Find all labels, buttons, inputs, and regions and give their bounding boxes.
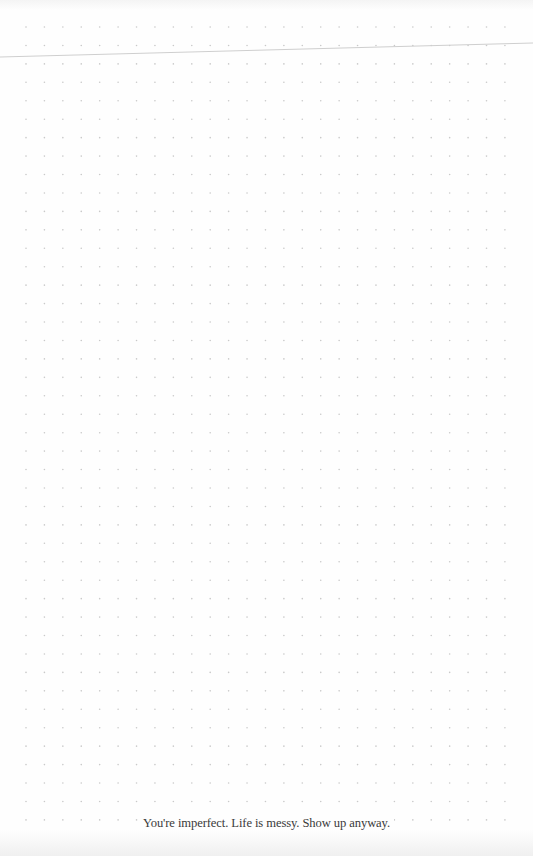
dot-grid [0, 0, 533, 856]
top-shadow [0, 0, 533, 10]
notebook-page: You're imperfect. Life is messy. Show up… [0, 0, 533, 856]
page-edge-line [0, 0, 533, 80]
bottom-shadow [0, 830, 533, 856]
